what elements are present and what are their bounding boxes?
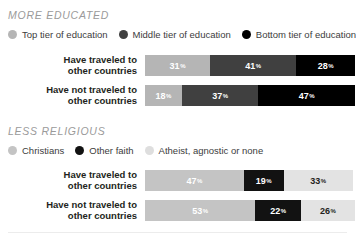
row-label: Have not traveled to other countries	[0, 200, 145, 221]
bar-segment-value: 26	[320, 206, 330, 216]
bar-segment: 22%	[255, 200, 301, 221]
bar-segment-value: 22	[270, 206, 280, 216]
bar-segment-value: 53	[192, 206, 202, 216]
legend-item-label: Bottom tier of education	[256, 29, 356, 40]
bar-segment-value: 33	[310, 176, 320, 186]
row-label-line: other countries	[0, 66, 137, 77]
legend-item-label: Top tier of education	[22, 29, 108, 40]
bar-segment: 28%	[296, 55, 355, 76]
percent-symbol: %	[328, 63, 333, 69]
legend-item: Christians	[8, 145, 64, 156]
percent-symbol: %	[309, 93, 314, 99]
table-row: Have not traveled to other countries 18%…	[0, 85, 355, 106]
bar-segment: 37%	[182, 85, 258, 106]
legend-dot-icon	[75, 146, 84, 155]
row-label: Have not traveled to other countries	[0, 85, 145, 106]
percent-symbol: %	[203, 208, 208, 214]
legend-item: Other faith	[75, 145, 133, 156]
table-row: Have not traveled to other countries 53%…	[0, 200, 355, 221]
bar-segment-value: 47	[186, 176, 196, 186]
bar-segment-value: 19	[256, 176, 266, 186]
bar-segment: 19%	[244, 170, 284, 191]
legend-less-religious: Christians Other faith Atheist, agnostic…	[0, 143, 355, 157]
stacked-bar: 31%41%28%	[145, 55, 355, 76]
percent-symbol: %	[166, 93, 171, 99]
legend-dot-icon	[242, 30, 251, 39]
legend-item-label: Other faith	[89, 145, 133, 156]
row-label-line: Have traveled to	[0, 170, 137, 181]
bar-segment: 47%	[258, 85, 355, 106]
row-label-line: other countries	[0, 96, 137, 107]
table-row: Have traveled to other countries 47%19%3…	[0, 170, 355, 191]
legend-item: Atheist, agnostic or none	[145, 145, 264, 156]
panel-more-educated: MORE EDUCATED Top tier of education Midd…	[0, 9, 355, 41]
percent-symbol: %	[256, 63, 261, 69]
legend-dot-icon	[8, 30, 17, 39]
legend-item: Top tier of education	[8, 29, 108, 40]
bar-segment-value: 31	[170, 61, 180, 71]
percent-symbol: %	[223, 93, 228, 99]
bar-rows-less-religious: Have traveled to other countries 47%19%3…	[0, 170, 355, 230]
panel-title-less-religious: LESS RELIGIOUS	[0, 125, 355, 138]
bar-segment-value: 41	[245, 61, 255, 71]
panel-title-more-educated: MORE EDUCATED	[0, 9, 355, 22]
stacked-bar: 53%22%26%	[145, 200, 355, 221]
legend-dot-icon	[145, 146, 154, 155]
legend-item-label: Atheist, agnostic or none	[159, 145, 264, 156]
bar-segment: 33%	[284, 170, 353, 191]
row-label: Have traveled to other countries	[0, 170, 145, 191]
legend-item: Bottom tier of education	[242, 29, 356, 40]
percent-symbol: %	[321, 178, 326, 184]
bar-segment: 41%	[210, 55, 296, 76]
panel-less-religious: LESS RELIGIOUS Christians Other faith At…	[0, 125, 355, 157]
stacked-bar: 47%19%33%	[145, 170, 355, 191]
bar-segment-value: 37	[212, 91, 222, 101]
row-label-line: other countries	[0, 211, 137, 222]
bar-segment: 31%	[145, 55, 210, 76]
row-label-line: Have traveled to	[0, 55, 137, 66]
percent-symbol: %	[281, 208, 286, 214]
bar-segment-value: 47	[299, 91, 309, 101]
bar-segment: 26%	[301, 200, 355, 221]
legend-dot-icon	[119, 30, 128, 39]
percent-symbol: %	[266, 178, 271, 184]
bar-segment-value: 28	[318, 61, 328, 71]
row-label-line: Have not traveled to	[0, 85, 137, 96]
percent-symbol: %	[197, 178, 202, 184]
table-row: Have traveled to other countries 31%41%2…	[0, 55, 355, 76]
bar-segment: 18%	[145, 85, 182, 106]
legend-more-educated: Top tier of education Middle tier of edu…	[0, 27, 355, 41]
bar-segment: 53%	[145, 200, 255, 221]
row-label-line: Have not traveled to	[0, 200, 137, 211]
bar-segment-value: 18	[156, 91, 166, 101]
legend-item: Middle tier of education	[119, 29, 231, 40]
legend-dot-icon	[8, 146, 17, 155]
bottom-divider	[8, 232, 347, 233]
bar-segment: 47%	[145, 170, 244, 191]
bar-rows-more-educated: Have traveled to other countries 31%41%2…	[0, 55, 355, 115]
row-label: Have traveled to other countries	[0, 55, 145, 76]
percent-symbol: %	[331, 208, 336, 214]
row-label-line: other countries	[0, 181, 137, 192]
stacked-bar: 18%37%47%	[145, 85, 355, 106]
legend-item-label: Christians	[22, 145, 64, 156]
percent-symbol: %	[180, 63, 185, 69]
legend-item-label: Middle tier of education	[133, 29, 231, 40]
